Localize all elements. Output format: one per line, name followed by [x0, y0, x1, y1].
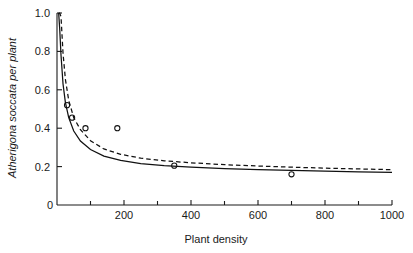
y-tick-label: 0.2 [35, 161, 50, 173]
x-tick-label: 800 [316, 209, 334, 221]
figure-container: 02004006008001000 0.20.40.60.81.0 Plant … [0, 0, 413, 253]
y-tick-label: 0.4 [35, 122, 50, 134]
data-point-marker [289, 172, 294, 177]
y-tick-label: 0.6 [35, 84, 50, 96]
x-axis-title: Plant density [185, 233, 248, 245]
data-point-marker [64, 103, 69, 108]
chart-canvas: 02004006008001000 0.20.40.60.81.0 Plant … [0, 0, 413, 253]
y-axis-title: Atherigona soccata per plant [6, 37, 18, 179]
x-axis-tick-marks [91, 200, 393, 205]
fitted-curve-solid [59, 13, 392, 172]
x-axis-tick-labels: 02004006008001000 [47, 199, 404, 221]
y-tick-label: 0.8 [35, 45, 50, 57]
x-tick-label: 200 [115, 209, 133, 221]
data-point-marker [115, 126, 120, 131]
y-tick-label: 1.0 [35, 7, 50, 19]
fitted-curve-dashed [59, 13, 392, 170]
y-axis-tick-labels: 0.20.40.60.81.0 [35, 7, 50, 173]
data-point-marker [83, 126, 88, 131]
x-tick-label: 1000 [380, 209, 404, 221]
x-tick-label: 600 [249, 209, 267, 221]
x-tick-label: 0 [47, 199, 53, 211]
x-tick-label: 400 [182, 209, 200, 221]
